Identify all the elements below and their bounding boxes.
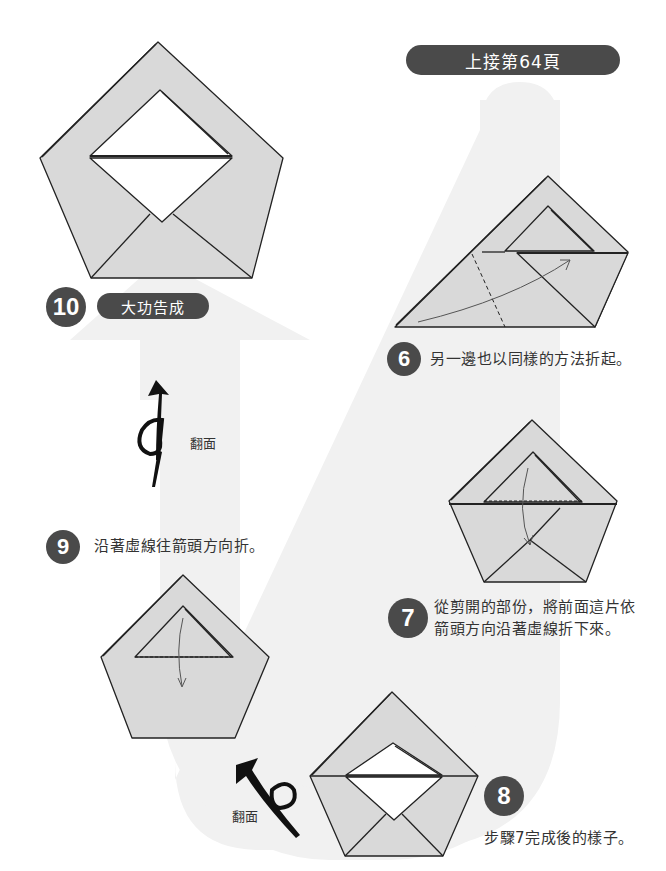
step-8-caption: 步驟7完成後的樣子。	[484, 827, 634, 849]
step-7-number-badge: 7	[388, 598, 428, 638]
step-7-number: 7	[401, 604, 414, 632]
flip-label-upper: 翻面	[190, 433, 216, 452]
origami-diagrams	[0, 0, 666, 871]
finished-badge: 大功告成	[97, 293, 209, 319]
step7-diagram	[449, 420, 617, 582]
step-10-number-badge: 10	[46, 287, 86, 327]
step6-diagram	[395, 176, 628, 327]
step9-diagram	[101, 575, 269, 738]
step-7-caption-line1: 從剪開的部份，將前面這片依	[434, 596, 636, 618]
step-8-number-badge: 8	[484, 776, 524, 816]
flip-label-lower: 翻面	[232, 806, 258, 825]
step-9-caption: 沿著虛線往箭頭方向折。	[94, 535, 265, 557]
step-7-caption: 從剪開的部份，將前面這片依 箭頭方向沿著虛線折下來。	[434, 596, 636, 640]
step-10-number: 10	[53, 293, 80, 321]
step-8-number: 8	[497, 782, 510, 810]
step-6-number-badge: 6	[387, 342, 421, 376]
step10-diagram	[40, 42, 283, 278]
step-6-caption: 另一邊也以同樣的方法折起。	[430, 348, 632, 370]
step8-diagram	[310, 692, 478, 856]
step-9-number: 9	[57, 534, 69, 560]
step-6-number: 6	[398, 346, 410, 372]
step-7-caption-line2: 箭頭方向沿著虛線折下來。	[434, 618, 636, 640]
step-9-number-badge: 9	[46, 530, 80, 564]
finished-label: 大功告成	[121, 296, 185, 317]
